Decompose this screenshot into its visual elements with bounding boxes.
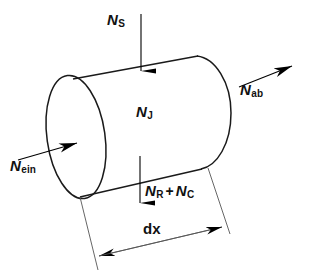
diagram-canvas (0, 0, 313, 280)
cylinder-far-cap-arc (197, 56, 231, 169)
cylinder-top-edge (73, 56, 198, 79)
symbol-n-c: N (176, 182, 187, 199)
subscript-j: J (147, 110, 153, 121)
label-incoming-flux: Nein (10, 158, 36, 175)
dimension-extension-right (208, 168, 230, 234)
label-internal-flux: NJ (136, 104, 153, 121)
dimension-extension-left (80, 197, 98, 270)
label-length-dx: dx (143, 221, 161, 237)
subscript-s: S (118, 18, 125, 29)
subscript-r: R (156, 189, 163, 200)
symbol-n-ab: N (240, 81, 251, 98)
plus-operator: + (164, 183, 176, 199)
subscript-ab: ab (251, 88, 263, 99)
symbol-n-ein: N (10, 157, 21, 174)
cylinder-body (39, 56, 231, 202)
subscript-ein: ein (21, 164, 35, 175)
label-solar-flux: NS (107, 12, 125, 29)
symbol-n-j: N (136, 103, 147, 120)
cylinder-flux-diagram: NS Nab NJ Nein NR+NC dx (0, 0, 313, 280)
symbol-n-s: N (107, 11, 118, 28)
dimension-text: dx (143, 220, 161, 237)
label-loss-flux: NR+NC (145, 183, 194, 200)
subscript-c: C (187, 189, 194, 200)
symbol-n-r: N (145, 182, 156, 199)
label-outgoing-flux: Nab (240, 82, 263, 99)
cylinder-near-face-ellipse (39, 72, 114, 203)
